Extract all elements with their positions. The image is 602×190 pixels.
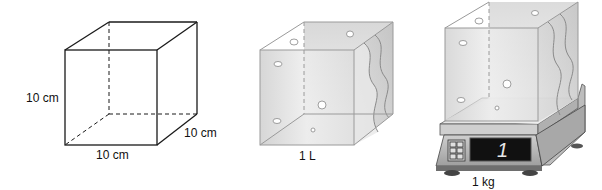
volume-label: 1 L [299, 149, 316, 163]
water-cube-figure [260, 22, 393, 145]
cube-on-scale-figure: 1 [436, 2, 585, 176]
cube-width-label: 10 cm [96, 148, 129, 162]
hidden-edges [65, 22, 197, 145]
cube-outline-figure [65, 22, 197, 145]
front-face [65, 50, 157, 145]
mass-label: 1 kg [472, 175, 495, 189]
cube-depth-label: 10 cm [184, 126, 217, 140]
cube-height-label: 10 cm [26, 91, 59, 105]
scale-display-value: 1 [497, 139, 508, 161]
keypad [448, 140, 465, 161]
